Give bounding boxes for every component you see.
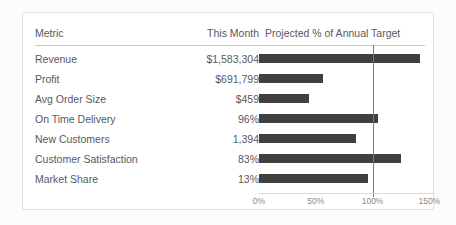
table-header-row: Metric This Month Projected % of Annual … [23, 23, 433, 43]
bar-profit [259, 74, 323, 83]
row-metric-label: Revenue [35, 49, 175, 69]
bar-chart-plot-area: 0% 50% 100% 150% [259, 47, 435, 191]
bar-row [259, 49, 435, 69]
row-metric-value: $1,583,304 [175, 49, 259, 69]
metrics-table: Metric This Month Projected % of Annual … [23, 13, 433, 209]
metrics-card: Metric This Month Projected % of Annual … [22, 12, 434, 210]
bar-row [259, 129, 435, 149]
bar-market-share [259, 174, 368, 183]
x-axis-tick-label: 0% [253, 196, 265, 206]
row-metric-label: Customer Satisfaction [35, 149, 175, 169]
bar-row [259, 169, 435, 189]
header-divider-left [35, 45, 279, 46]
x-axis-tick-label: 150% [418, 196, 440, 206]
bar-row [259, 109, 435, 129]
bar-row [259, 149, 435, 169]
column-header-this-month: This Month [175, 23, 259, 43]
x-axis-tick-label: 50% [307, 196, 324, 206]
row-metric-label: Market Share [35, 169, 175, 189]
row-metric-value: 96% [175, 109, 259, 129]
column-header-metric: Metric [35, 23, 175, 43]
target-reference-line [373, 45, 374, 197]
bar-row [259, 69, 435, 89]
row-metric-label: New Customers [35, 129, 175, 149]
x-axis-tick-label: 100% [362, 196, 384, 206]
bar-on-time-delivery [259, 114, 378, 123]
row-metric-value: 83% [175, 149, 259, 169]
row-metric-value: 1,394 [175, 129, 259, 149]
row-metric-value: $459 [175, 89, 259, 109]
bar-revenue [259, 54, 420, 63]
bar-avg-order-size [259, 94, 309, 103]
row-metric-label: Avg Order Size [35, 89, 175, 109]
row-metric-value: $691,799 [175, 69, 259, 89]
row-metric-value: 13% [175, 169, 259, 189]
page-root: Metric This Month Projected % of Annual … [0, 0, 456, 225]
row-metric-label: Profit [35, 69, 175, 89]
row-metric-label: On Time Delivery [35, 109, 175, 129]
bar-row [259, 89, 435, 109]
x-axis-line [259, 193, 435, 194]
column-header-projected-target: Projected % of Annual Target [265, 23, 435, 43]
bar-new-customers [259, 134, 356, 143]
header-divider-right [263, 45, 425, 46]
bar-customer-satisfaction [259, 154, 401, 163]
